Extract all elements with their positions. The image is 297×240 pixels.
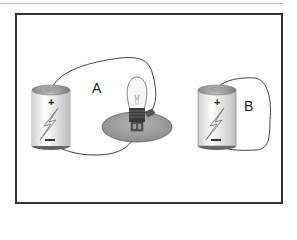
battery-a: + [32, 85, 70, 150]
bulb-glass [127, 77, 147, 110]
label-a: A [92, 80, 101, 96]
bulb-socket [129, 108, 145, 122]
plus-sign: + [48, 96, 54, 108]
plus-sign: + [214, 96, 220, 108]
minus-sign [45, 139, 55, 141]
bulb-in-holder [102, 77, 172, 142]
battery-b: + [198, 85, 236, 150]
minus-sign [211, 139, 221, 141]
label-b: B [244, 98, 253, 114]
